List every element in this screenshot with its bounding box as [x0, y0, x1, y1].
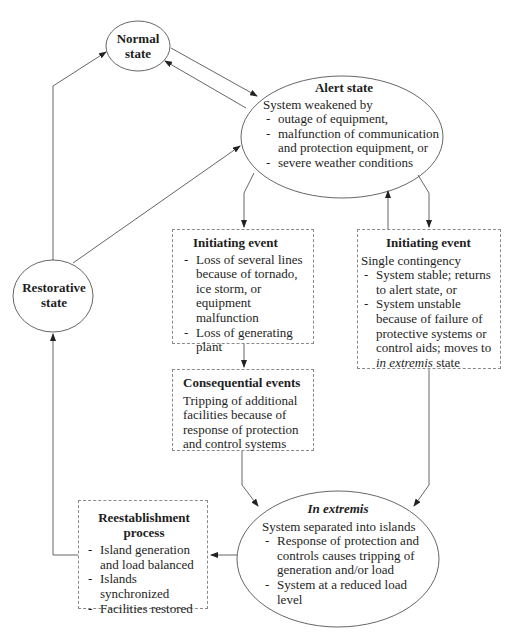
- in-extremis-list: Response of protection and controls caus…: [262, 534, 432, 607]
- initiating-event-right-item-tail: state: [436, 355, 460, 370]
- initiating-event-right-item: System stable; returns to alert state, o…: [361, 268, 496, 297]
- initiating-event-right-box: Initiating event Single contingency Syst…: [357, 229, 501, 369]
- restorative-state-title-line2: state: [14, 295, 94, 310]
- alert-state-list: outage of equipment, malfunction of comm…: [263, 112, 443, 170]
- reestablishment-item: Islands synchronized: [85, 572, 203, 601]
- initiating-event-right-lead: Single contingency: [361, 254, 496, 269]
- restorative-state-node: Restorative state: [14, 280, 94, 310]
- consequential-events-title: Consequential events: [183, 376, 307, 391]
- normal-state-title-line1: Normal: [106, 31, 170, 46]
- consequential-events-text: Tripping of additional facilities becaus…: [183, 394, 307, 452]
- initiating-event-right-item-text: System unstable because of failure of pr…: [376, 296, 491, 355]
- initiating-event-left-list: Loss of several lines because of tornado…: [181, 253, 307, 355]
- initiating-event-right-list: System stable; returns to alert state, o…: [361, 268, 496, 370]
- initiating-event-left-box: Initiating event Loss of several lines b…: [172, 229, 314, 344]
- initiating-event-right-title: Initiating event: [361, 236, 496, 251]
- normal-state-title-line2: state: [106, 46, 170, 61]
- in-extremis-item: System at a reduced load level: [262, 578, 432, 607]
- reestablishment-title-line1: Reestablishment: [85, 511, 203, 526]
- alert-state-title: Alert state: [245, 81, 443, 96]
- in-extremis-inline: in extremis: [376, 355, 433, 370]
- in-extremis-node: In extremis System separated into island…: [262, 502, 432, 607]
- reestablishment-box: Reestablishment process Island generatio…: [78, 500, 208, 609]
- reestablishment-list: Island generation and load balanced Isla…: [85, 543, 203, 616]
- alert-state-lead: System weakened by: [263, 98, 443, 113]
- in-extremis-title: In extremis: [244, 502, 432, 517]
- alert-state-node: Alert state System weakened by outage of…: [263, 81, 443, 171]
- initiating-event-right-item: System unstable because of failure of pr…: [361, 297, 496, 370]
- reestablishment-title-line2: process: [85, 526, 203, 541]
- reestablishment-item: Island generation and load balanced: [85, 543, 203, 572]
- alert-state-item: malfunction of communication and protect…: [263, 127, 443, 156]
- alert-state-item: severe weather conditions: [263, 156, 443, 171]
- in-extremis-lead: System separated into islands: [262, 520, 432, 535]
- reestablishment-item: Facilities restored: [85, 602, 203, 617]
- alert-state-item: outage of equipment,: [263, 112, 443, 127]
- initiating-event-left-item: Loss of several lines because of tornado…: [181, 253, 307, 326]
- initiating-event-left-item: Loss of generating plant: [181, 326, 307, 355]
- restorative-state-title-line1: Restorative: [14, 280, 94, 295]
- initiating-event-left-title: Initiating event: [181, 236, 307, 251]
- consequential-events-box: Consequential events Tripping of additio…: [172, 369, 314, 451]
- in-extremis-item: Response of protection and controls caus…: [262, 534, 432, 578]
- normal-state-node: Normal state: [106, 31, 170, 61]
